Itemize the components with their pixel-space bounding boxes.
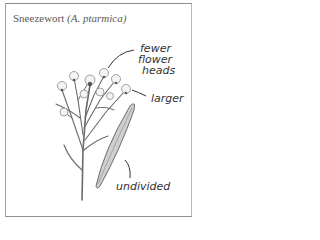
- label-larger: larger: [151, 93, 184, 104]
- label-fewer-flower-heads: fewer flower heads: [140, 43, 175, 76]
- label-undivided: undivided: [116, 181, 170, 192]
